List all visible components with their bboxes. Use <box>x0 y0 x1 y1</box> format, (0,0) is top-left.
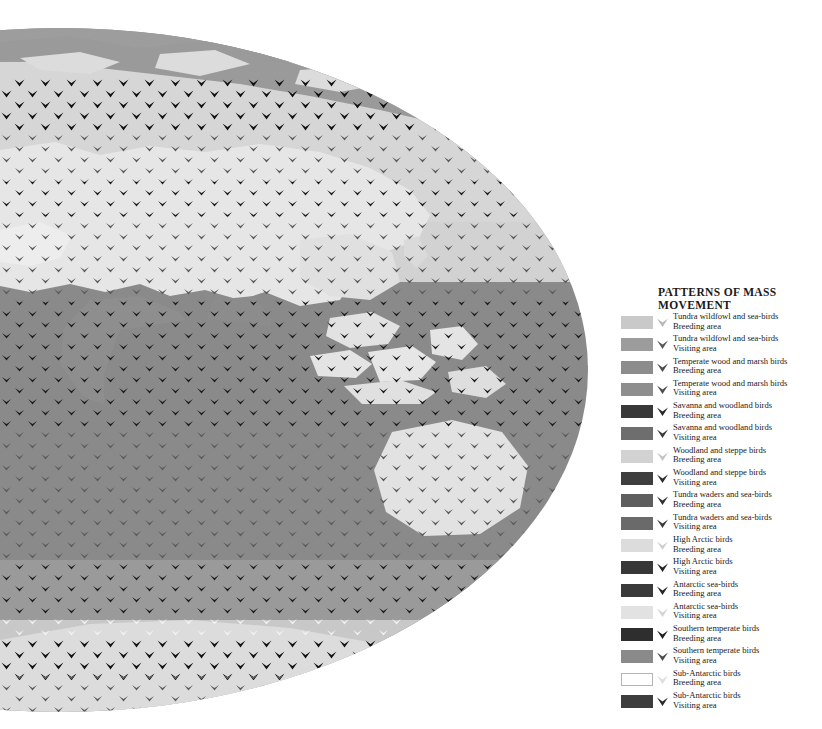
bird-chevron-icon <box>656 694 669 707</box>
legend-item-label: Woodland and steppe birdsVisiting area <box>673 468 822 487</box>
bird-chevron-icon <box>656 471 669 484</box>
legend-item-area-type: Visiting area <box>673 344 822 354</box>
legend-item-label: Savanna and woodland birdsBreeding area <box>673 401 822 420</box>
bird-band-antarctic <box>0 640 620 680</box>
legend-item-area-type: Visiting area <box>673 611 822 621</box>
legend-item-label: High Arctic birdsBreeding area <box>673 535 822 554</box>
legend-color-swatch <box>621 494 653 507</box>
legend-item-label: Temperate wood and marsh birdsBreeding a… <box>673 357 822 376</box>
legend-color-swatch <box>621 338 653 351</box>
legend-panel: PATTERNS OF MASS MOVEMENT Tundra wildfow… <box>620 286 822 706</box>
bird-chevron-icon <box>656 449 669 462</box>
legend-item-area-type: Visiting area <box>673 522 822 532</box>
legend-item-label: Sub-Antarctic birdsBreeding area <box>673 669 822 688</box>
legend-color-swatch <box>621 539 653 552</box>
bird-band-subtropic <box>0 302 620 430</box>
legend-item-label: Woodland and steppe birdsBreeding area <box>673 446 822 465</box>
legend-item-area-type: Visiting area <box>673 478 822 488</box>
bird-chevron-icon <box>656 649 669 662</box>
bird-chevron-icon <box>656 360 669 373</box>
legend-item-label: Savanna and woodland birdsVisiting area <box>673 423 822 442</box>
legend-color-swatch <box>621 561 653 574</box>
legend-item-label: Southern temperate birdsVisiting area <box>673 646 822 665</box>
legend-item-label: Southern temperate birdsBreeding area <box>673 624 822 643</box>
legend-item-area-type: Breeding area <box>673 500 822 510</box>
globe-contents <box>0 0 620 729</box>
bird-band-high-arctic <box>0 78 620 134</box>
legend-color-swatch <box>621 405 653 418</box>
legend-color-swatch <box>621 427 653 440</box>
bird-chevron-icon <box>656 382 669 395</box>
bird-chevron-icon <box>656 627 669 640</box>
legend-item-area-type: Breeding area <box>673 455 822 465</box>
legend-item-label: Antarctic sea-birdsBreeding area <box>673 580 822 599</box>
legend-item-area-type: Breeding area <box>673 545 822 555</box>
legend-item-area-type: Visiting area <box>673 656 822 666</box>
new-zealand-islands <box>550 514 582 548</box>
legend-item-area-type: Breeding area <box>673 366 822 376</box>
bird-chevron-icon <box>656 426 669 439</box>
bird-chevron-icon <box>656 560 669 573</box>
bird-chevron-icon <box>656 516 669 529</box>
bird-band-southern-temperate <box>0 560 620 618</box>
legend-item-area-type: Visiting area <box>673 433 822 443</box>
legend-item-area-type: Breeding area <box>673 589 822 599</box>
legend-color-swatch <box>621 383 653 396</box>
legend-item-area-type: Visiting area <box>673 388 822 398</box>
legend-color-swatch <box>621 695 653 708</box>
legend-color-swatch <box>621 628 653 641</box>
legend-color-swatch <box>621 606 653 619</box>
legend-item-label: Sub-Antarctic birdsVisiting area <box>673 691 822 710</box>
bird-chevron-icon <box>656 404 669 417</box>
legend-item-area-type: Breeding area <box>673 411 822 421</box>
bird-chevron-icon <box>656 493 669 506</box>
world-map-graphic <box>0 0 620 729</box>
legend-item-label: Tundra waders and sea-birdsVisiting area <box>673 513 822 532</box>
bird-chevron-icon <box>656 583 669 596</box>
legend-item-label: Antarctic sea-birdsVisiting area <box>673 602 822 621</box>
legend-item-area-type: Breeding area <box>673 634 822 644</box>
legend-item-label: High Arctic birdsVisiting area <box>673 557 822 576</box>
bird-chevron-icon <box>656 538 669 551</box>
legend-color-swatch <box>621 472 653 485</box>
bird-band-temperate <box>0 216 620 302</box>
legend-color-swatch <box>621 361 653 374</box>
map-canvas <box>0 0 620 729</box>
legend-item-label: Tundra wildfowl and sea-birdsVisiting ar… <box>673 334 822 353</box>
legend-item-label: Tundra wildfowl and sea-birdsBreeding ar… <box>673 312 822 331</box>
bird-band-tundra-a <box>0 134 620 182</box>
legend-color-swatch <box>621 584 653 597</box>
legend-item-area-type: Breeding area <box>673 678 822 688</box>
bird-band-tropic-south <box>0 430 620 560</box>
legend-item-list: Tundra wildfowl and sea-birdsBreeding ar… <box>620 314 822 715</box>
bird-band-polar-south <box>0 676 620 729</box>
bird-band-tundra-b <box>0 182 620 216</box>
legend-color-swatch <box>621 316 653 329</box>
legend-color-swatch <box>621 517 653 530</box>
legend-color-swatch <box>621 673 653 686</box>
legend-item: Sub-Antarctic birdsVisiting area <box>620 693 822 715</box>
legend-item-label: Temperate wood and marsh birdsVisiting a… <box>673 379 822 398</box>
bird-chevron-icon <box>656 337 669 350</box>
legend-color-swatch <box>621 650 653 663</box>
legend-item-area-type: Visiting area <box>673 701 822 711</box>
bird-chevron-icon <box>656 672 669 685</box>
legend-title: PATTERNS OF MASS MOVEMENT <box>658 286 822 311</box>
legend-item-area-type: Breeding area <box>673 322 822 332</box>
legend-color-swatch <box>621 450 653 463</box>
legend-item-label: Tundra waders and sea-birdsBreeding area <box>673 490 822 509</box>
legend-item-area-type: Visiting area <box>673 567 822 577</box>
bird-chevron-icon <box>656 315 669 328</box>
bird-chevron-icon <box>656 605 669 618</box>
